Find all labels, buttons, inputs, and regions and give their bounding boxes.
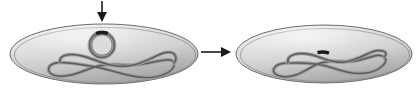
cell-before <box>10 24 198 84</box>
gene-marker-on-plasmid <box>96 33 108 34</box>
figure-canvas <box>0 0 417 92</box>
plasmid-ring <box>90 33 115 58</box>
gene-marker-on-chromosome <box>318 52 330 53</box>
cell-after <box>236 25 412 83</box>
plasmid-integration-figure: Plasmid uptake and integration into the … <box>0 0 417 92</box>
